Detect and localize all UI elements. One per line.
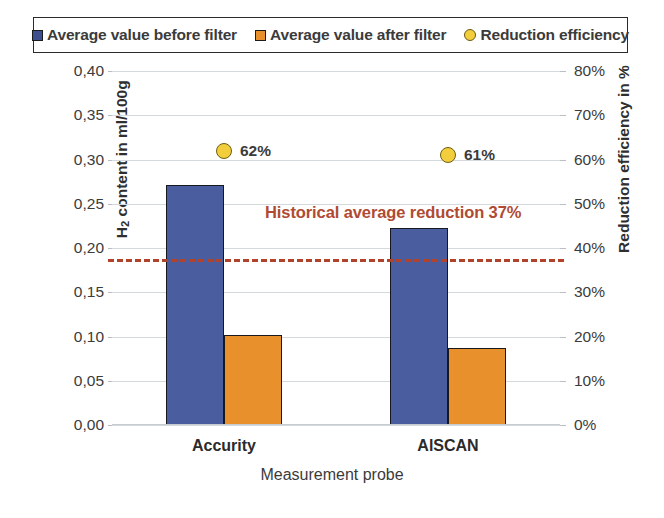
- chart-page: Average value before filter Average valu…: [0, 0, 664, 518]
- legend-label-reduction-efficiency: Reduction efficiency: [480, 26, 629, 44]
- y-axis-left-tick-label: 0,15: [74, 283, 104, 301]
- y-axis-left-tick-label: 0,25: [74, 195, 104, 213]
- bar-after-filter-accurity: [224, 335, 282, 425]
- x-axis-category-1: AlSCAN: [417, 437, 478, 455]
- y-axis-right-tickmark: [559, 337, 566, 338]
- y-axis-left-tick-label: 0,20: [74, 239, 104, 257]
- y-axis-right-tickmark: [559, 71, 566, 72]
- x-axis-baseline: [112, 424, 560, 425]
- legend-label-before-filter: Average value before filter: [47, 26, 237, 44]
- y-axis-right-tick-label: 60%: [574, 151, 605, 169]
- y-axis-left-tick-label: 0,40: [74, 62, 104, 80]
- y-axis-right-tickmark: [559, 381, 566, 382]
- x-axis-category-0: Accurity: [192, 437, 256, 455]
- y-axis-right-tickmark: [559, 204, 566, 205]
- y-axis-right-tick-label: 10%: [574, 372, 605, 390]
- y-axis-left-tick-label: 0,10: [74, 328, 104, 346]
- y-axis-right-tick-label: 40%: [574, 239, 605, 257]
- gridline: [112, 425, 560, 426]
- y-axis-right-tickmark: [559, 292, 566, 293]
- y-axis-right-tick-label: 30%: [574, 283, 605, 301]
- y-axis-right-tick-label: 20%: [574, 328, 605, 346]
- bar-before-filter-accurity: [166, 185, 224, 425]
- legend-item-reduction-efficiency: Reduction efficiency: [464, 26, 629, 44]
- y-axis-right-tickmark: [559, 425, 566, 426]
- legend-item-before-filter: Average value before filter: [32, 26, 237, 44]
- legend-label-after-filter: Average value after filter: [270, 26, 446, 44]
- y-axis-left-tick-label: 0,00: [74, 416, 104, 434]
- gridline: [112, 71, 560, 72]
- reduction-efficiency-label-accurity: 62%: [240, 142, 271, 160]
- y-axis-right-tick-label: 80%: [574, 62, 605, 80]
- y-axis-left: 0,000,050,100,150,200,250,300,350,40: [42, 71, 104, 425]
- gridline: [112, 115, 560, 116]
- legend-item-after-filter: Average value after filter: [255, 26, 446, 44]
- y-axis-right-tick-label: 70%: [574, 106, 605, 124]
- legend-swatch-before-filter: [32, 30, 43, 41]
- plot-area: Historical average reduction 37%62%61%: [112, 71, 560, 425]
- y-axis-right-tick-label: 0%: [574, 416, 596, 434]
- y-axis-right-title: Reduction efficiency in %: [615, 19, 633, 299]
- y-axis-right-tickmark: [559, 160, 566, 161]
- y-axis-left-tick-label: 0,05: [74, 372, 104, 390]
- y-axis-left-tick-label: 0,30: [74, 151, 104, 169]
- x-axis-title: Measurement probe: [0, 466, 664, 484]
- historical-average-line: [108, 259, 564, 262]
- bar-before-filter-alscan: [390, 228, 448, 425]
- y-axis-right-tick-label: 50%: [574, 195, 605, 213]
- y-axis-right-tickmark: [559, 115, 566, 116]
- y-axis-right-tickmark: [559, 248, 566, 249]
- reduction-efficiency-label-alscan: 61%: [464, 146, 495, 164]
- reduction-efficiency-marker-accurity: [216, 143, 232, 159]
- bar-after-filter-alscan: [448, 348, 506, 425]
- reduction-efficiency-marker-alscan: [440, 147, 456, 163]
- historical-average-label: Historical average reduction 37%: [265, 203, 521, 222]
- legend-swatch-after-filter: [255, 30, 266, 41]
- y-axis-left-tick-label: 0,35: [74, 106, 104, 124]
- legend-swatch-reduction-efficiency: [464, 29, 476, 41]
